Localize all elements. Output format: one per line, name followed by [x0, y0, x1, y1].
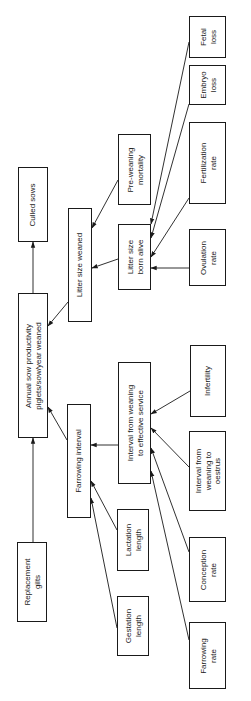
node-pre-weaning-mortality: Pre-weaning mortality: [118, 134, 151, 205]
node-annual-sow-productivity: Annual sow productivity piglets/sow/year…: [18, 293, 48, 438]
node-label: Culled sows: [28, 183, 38, 226]
node-farrowing-interval: Farrowing interval: [67, 404, 91, 518]
node-culled-sows: Culled sows: [18, 167, 48, 242]
edge-fetal-to-born-alive: [151, 42, 189, 224]
node-label: Conception rate: [198, 549, 217, 589]
edge-embryo-to-born-alive: [151, 104, 189, 238]
node-infertility: Infertility: [190, 345, 226, 417]
edge-lactation-to-farrowing-interval: [91, 481, 117, 530]
node-label: Embryo loss: [198, 71, 217, 99]
node-label: Fetal loss: [198, 28, 217, 46]
node-replacement-gilts: Replacement gilts: [17, 542, 47, 622]
node-label: Ovulation rate: [198, 241, 217, 275]
node-label: Pre-weaning mortality: [125, 147, 144, 192]
node-interval-weaning-effective-service: Interval from weaning to effective servi…: [118, 362, 151, 484]
edge-farrowing-rate-to-service: [151, 471, 189, 640]
node-label: Interval from weaning to effective servi…: [125, 385, 144, 461]
edge-born-alive-to-weaned: [92, 259, 118, 268]
node-farrowing-rate: Farrowing rate: [189, 622, 226, 689]
node-litter-size-weaned: Litter size weaned: [68, 208, 92, 322]
node-label: Interval from weaning to oestrus: [193, 449, 222, 493]
node-gestation-length: Gestation length: [117, 596, 149, 656]
node-label: Litter size weaned: [75, 233, 85, 297]
edge-farrowing-interval-to-annual: [48, 407, 67, 440]
node-label: Litter size born alive: [125, 240, 144, 275]
node-lactation-length: Lactation length: [117, 509, 149, 571]
edge-gestation-to-farrowing-interval: [91, 498, 117, 628]
node-label: Lactation length: [124, 524, 143, 556]
node-label: Annual sow productivity piglets/sow/year…: [24, 322, 43, 410]
node-conception-rate: Conception rate: [189, 537, 226, 602]
node-litter-size-born-alive: Litter size born alive: [118, 224, 151, 290]
node-label: Farrowing interval: [74, 429, 84, 493]
node-ovulation-rate: Ovulation rate: [189, 229, 226, 286]
node-label: Gestation length: [124, 609, 143, 643]
edge-infertility-to-service: [151, 391, 190, 414]
edge-oestrus-to-service: [151, 428, 189, 467]
node-embryo-loss: Embryo loss: [189, 65, 226, 105]
sow-productivity-diagram: Culled sows Annual sow productivity pigl…: [0, 0, 251, 701]
node-label: Fertilization rate: [198, 143, 217, 184]
node-label: Replacement gilts: [23, 558, 42, 605]
edge-conception-to-service: [151, 448, 189, 552]
node-fertilization-rate: Fertilization rate: [189, 122, 226, 204]
edge-fertilization-to-born-alive: [151, 198, 189, 257]
node-label: Infertility: [203, 366, 213, 396]
edge-weaned-to-annual: [48, 302, 68, 326]
edge-mortality-to-weaned: [92, 180, 118, 228]
node-label: Farrowing rate: [198, 638, 217, 674]
node-fetal-loss: Fetal loss: [189, 16, 226, 58]
node-interval-weaning-oestrus: Interval from weaning to oestrus: [189, 431, 226, 511]
